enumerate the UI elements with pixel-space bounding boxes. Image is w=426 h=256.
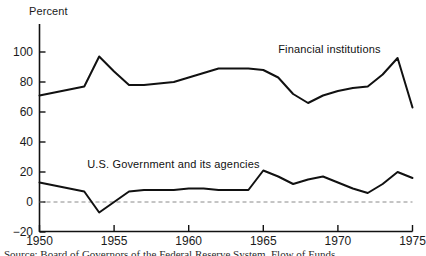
- axis-lines: [40, 24, 413, 232]
- y-axis-tick-label: 100: [0, 45, 33, 59]
- x-axis-ticks: [40, 225, 413, 232]
- y-axis-tick-label: 60: [0, 105, 33, 119]
- x-axis-tick-label: 1960: [159, 234, 219, 248]
- y-axis-tick-label: 40: [0, 135, 33, 149]
- figure-caption: Source: Board of Governors of the Federa…: [4, 248, 426, 256]
- x-axis-tick-label: 1965: [233, 234, 293, 248]
- y-axis-tick-label: 0: [0, 195, 33, 209]
- series-label-2: U.S. Government and its agencies: [87, 158, 259, 170]
- y-axis-tick-label: 80: [0, 75, 33, 89]
- y-axis-ticks: [40, 52, 46, 232]
- x-axis-tick-label: 1975: [383, 234, 426, 248]
- chart-figure: Percent 100806040200−20 1950195519601965…: [0, 0, 426, 256]
- series-line-2: [40, 171, 413, 213]
- x-axis-tick-label: 1970: [308, 234, 368, 248]
- x-axis-tick-label: 1950: [10, 234, 70, 248]
- series-label-1: Financial institutions: [278, 43, 380, 55]
- line-chart-plot: [0, 0, 426, 256]
- y-axis-tick-label: 20: [0, 165, 33, 179]
- series-line-1: [40, 57, 413, 108]
- x-axis-tick-label: 1955: [84, 234, 144, 248]
- data-series-group: [40, 57, 413, 213]
